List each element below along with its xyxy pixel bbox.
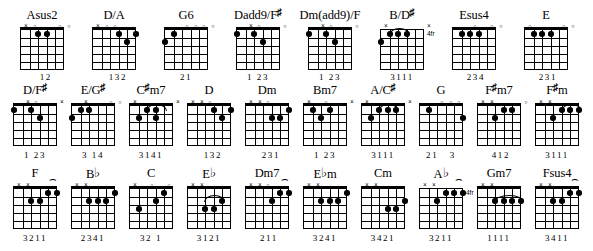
fret-line: [130, 138, 172, 139]
finger-dot: [286, 190, 292, 196]
finger-dot: [376, 107, 382, 113]
fret-line: [93, 46, 135, 47]
fingering-row: 3211: [413, 231, 469, 245]
finger-dot: [378, 39, 384, 45]
finger-dot: [161, 190, 167, 196]
fret-line: [525, 62, 567, 63]
chord-name: B/D♯: [389, 8, 414, 22]
finger-dot: [368, 115, 374, 121]
fingering-numbers: 412: [488, 150, 510, 162]
chord-row: D/F♯1 23E/G♯3 14C♯m73141D 132Dm 231Bm71 …: [0, 82, 593, 163]
open-string-icon: [498, 22, 505, 30]
fingering-numbers: 1 23: [314, 150, 336, 162]
finger-dot: [434, 198, 440, 204]
string-line: [263, 30, 264, 69]
fret-line: [237, 62, 279, 63]
fret-line: [453, 62, 495, 63]
chord-name: Dm7: [255, 166, 280, 181]
finger-dot: [162, 39, 168, 45]
string-line: [48, 106, 49, 145]
fingering-row: 3111: [374, 70, 430, 84]
fret-line: [165, 46, 207, 47]
chord-diagram: Esus4 234: [438, 8, 510, 82]
fret-line: [304, 122, 346, 123]
finger-dot: [54, 190, 60, 196]
nut: [71, 103, 115, 106]
finger-dot: [501, 198, 507, 204]
chord-diagram: D/A 132: [78, 8, 150, 82]
string-line: [191, 30, 192, 69]
chord-name: Esus4: [459, 8, 488, 22]
nut: [245, 186, 289, 189]
fretboard: ⁀: [7, 181, 63, 231]
chord-diagram: F♯m3111: [528, 83, 586, 163]
string-line: [335, 30, 336, 69]
fingering-row: 2341: [65, 231, 121, 245]
fret-grid: [245, 106, 289, 146]
finger-dot: [11, 107, 17, 113]
fret-grid: [303, 189, 347, 229]
fret-line: [478, 213, 520, 214]
nut: [13, 186, 57, 189]
fret-line: [14, 130, 56, 131]
fret-line: [246, 221, 288, 222]
fret-line: [14, 213, 56, 214]
nut: [13, 103, 57, 106]
finger-dot: [576, 107, 582, 113]
finger-dot: [219, 198, 225, 204]
nut: [236, 27, 280, 30]
fret-line: [304, 114, 346, 115]
fingering-row: 132: [181, 148, 237, 162]
fret-grid: [308, 30, 352, 70]
fret-line: [246, 122, 288, 123]
fret-line: [237, 46, 279, 47]
string-line: [222, 189, 223, 228]
fret-line: [72, 130, 114, 131]
nut: [20, 27, 64, 30]
string-line: [263, 106, 264, 145]
fretboard: [297, 181, 353, 231]
string-line: [437, 106, 438, 145]
finger-dot: [251, 31, 257, 37]
fret-line: [14, 122, 56, 123]
sharp-icon: ♯: [100, 81, 105, 93]
chord-diagram: Dm 231: [238, 83, 296, 163]
chord-name: Dm: [258, 83, 277, 98]
fret-grid: [535, 106, 579, 146]
finger-dot: [234, 31, 240, 37]
fret-line: [381, 46, 423, 47]
open-string-icon: [282, 22, 289, 30]
fingering-row: 3411: [529, 231, 585, 245]
chord-name: F♯m: [546, 83, 567, 98]
fret-line: [309, 62, 351, 63]
fret-line: [420, 138, 462, 139]
string-line: [182, 30, 183, 69]
fingering-row: 3111: [355, 148, 411, 162]
fret-line: [72, 221, 114, 222]
finger-dot: [35, 31, 41, 37]
fingering-numbers: 3421: [371, 233, 395, 245]
finger-dot: [559, 198, 565, 204]
finger-dot: [45, 190, 51, 196]
fingering-row: 21: [158, 70, 214, 84]
finger-dot: [327, 198, 333, 204]
chord-chart-sheet: Asus2 12D/A 132G621Dadd9/F♯1 23Dm(add9)/…: [0, 0, 593, 251]
fret-line: [72, 122, 114, 123]
finger-dot: [550, 198, 556, 204]
string-line: [255, 106, 256, 145]
finger-dot: [228, 107, 234, 113]
string-line: [454, 106, 455, 145]
finger-dot: [44, 31, 50, 37]
nut: [535, 186, 579, 189]
fret-grid: [13, 189, 57, 229]
finger-dot: [393, 206, 399, 212]
fret-line: [304, 130, 346, 131]
nut: [308, 27, 352, 30]
fret-line: [525, 54, 567, 55]
fretboard: [65, 98, 121, 148]
sharp-icon: ♯: [492, 81, 497, 93]
chord-diagram: D 132: [180, 83, 238, 163]
fretboard: [65, 181, 121, 231]
fretboard: [471, 181, 527, 231]
chord-name: Gm7: [487, 166, 512, 181]
